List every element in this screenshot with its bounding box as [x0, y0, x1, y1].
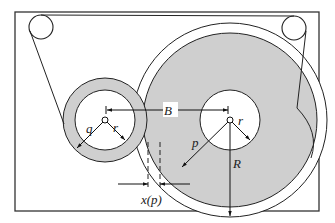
- tape-line-left: [30, 31, 64, 124]
- label-R: R: [232, 156, 241, 171]
- label-q: q: [86, 121, 93, 136]
- reel-diagram: B q r r p R x(p): [0, 0, 335, 223]
- label-B: B: [164, 103, 172, 118]
- small-reel-center: [102, 117, 108, 123]
- idler-top-left: [29, 15, 53, 39]
- tape-line-top: [41, 15, 294, 16]
- label-xp: x(p): [140, 192, 162, 207]
- label-p: p: [191, 135, 199, 150]
- idler-top-right: [282, 16, 306, 40]
- large-reel-center: [227, 117, 233, 123]
